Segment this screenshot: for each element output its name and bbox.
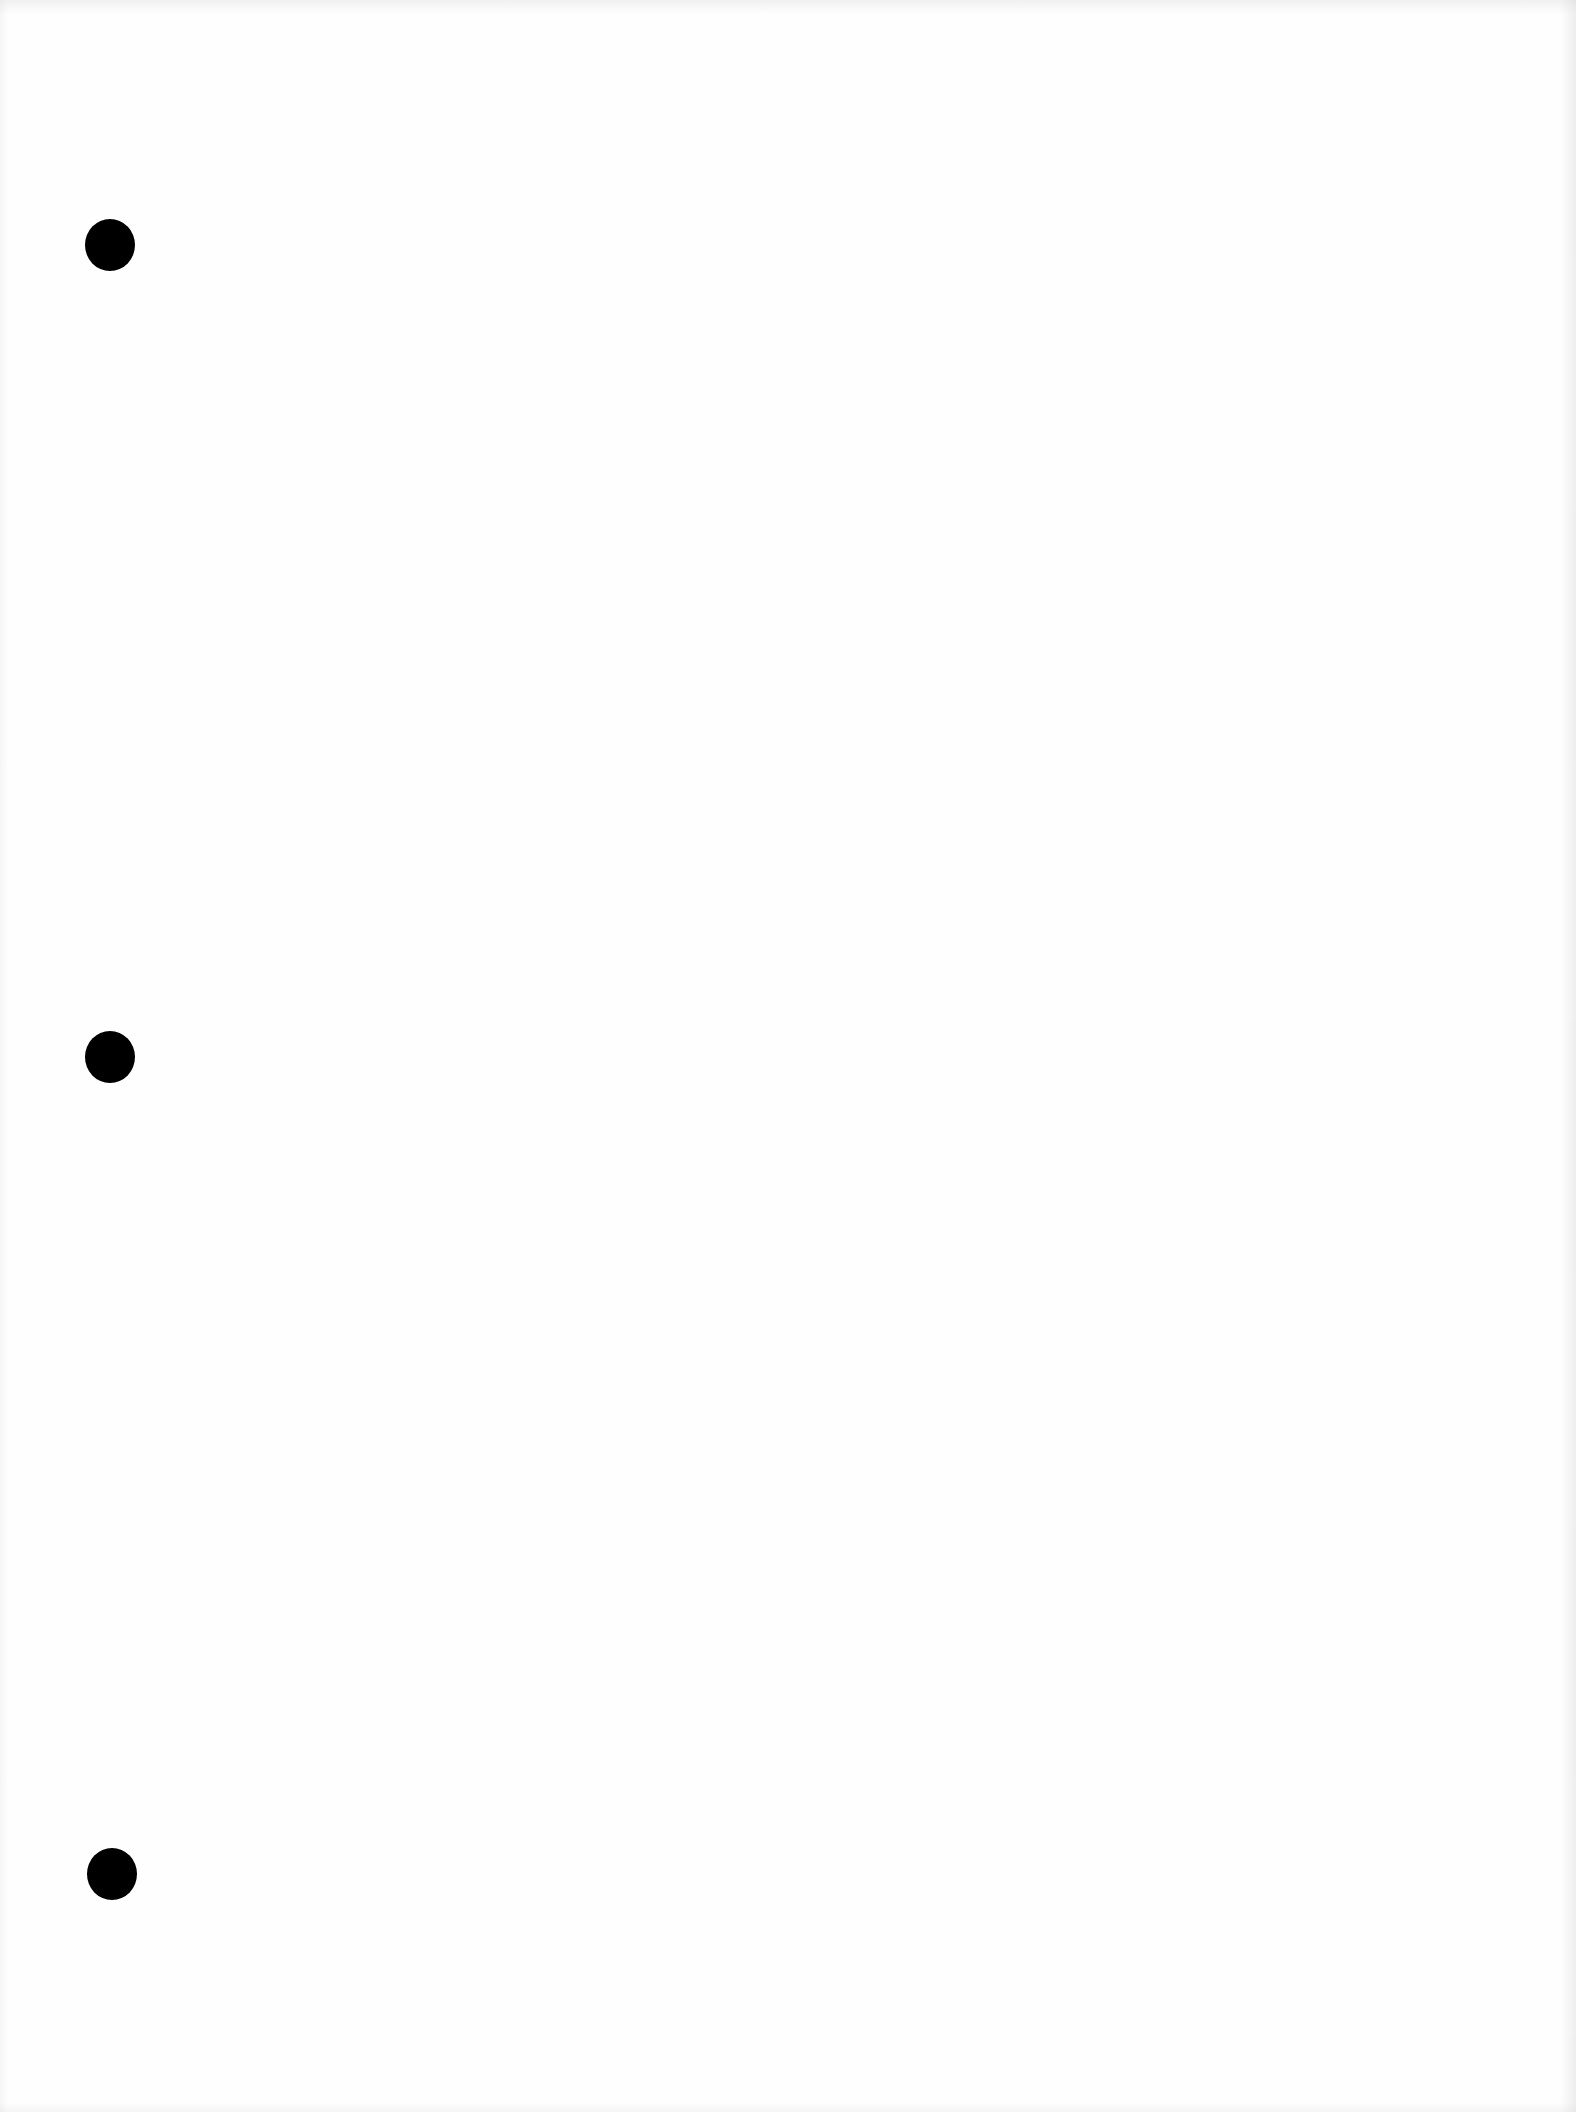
blank-page — [0, 0, 1576, 2112]
punch-hole-top — [85, 219, 135, 271]
punch-hole-bottom — [87, 1848, 137, 1900]
punch-hole-middle — [85, 1031, 135, 1083]
